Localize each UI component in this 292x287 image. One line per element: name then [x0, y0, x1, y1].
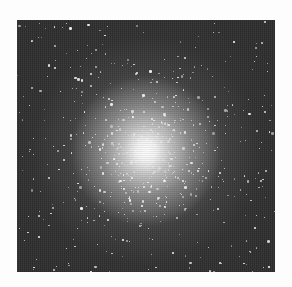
star-dot [40, 191, 41, 192]
star-dot [264, 21, 266, 23]
star-dot [254, 227, 256, 229]
star-dot [218, 176, 219, 177]
star-dot [137, 169, 138, 170]
star-dot [119, 128, 122, 131]
star-dot [142, 94, 145, 97]
star-dot [153, 161, 155, 163]
star-dot [168, 165, 171, 168]
star-dot [255, 47, 257, 49]
star-dot [181, 194, 182, 195]
star-dot [197, 170, 199, 172]
star-dot [38, 236, 40, 238]
star-dot [201, 65, 202, 66]
star-cluster-photo [17, 20, 275, 272]
star-dot [157, 133, 159, 135]
star-dot [156, 188, 159, 191]
star-dot [189, 267, 191, 269]
star-dot [153, 120, 155, 122]
star-dot [69, 27, 72, 30]
star-dot [164, 77, 165, 78]
star-dot [194, 66, 196, 68]
star-dot [219, 262, 221, 264]
star-dot [197, 96, 200, 99]
star-dot [182, 169, 183, 170]
star-dot [33, 267, 35, 269]
star-dot [167, 124, 170, 127]
star-dot [131, 190, 132, 191]
star-dot [245, 215, 246, 216]
star-dot [132, 116, 134, 118]
star-dot [144, 154, 146, 156]
star-dot [22, 170, 23, 171]
star-dot [155, 267, 157, 269]
star-dot [111, 132, 114, 135]
star-dot [177, 56, 179, 58]
star-dot [79, 186, 82, 189]
star-dot [149, 70, 152, 73]
star-dot [18, 25, 21, 28]
star-dot [63, 159, 65, 161]
star-dot [174, 131, 175, 132]
star-dot [173, 97, 174, 98]
star-dot [131, 160, 132, 161]
star-dot [203, 152, 204, 153]
star-dot [246, 264, 247, 265]
star-dot [118, 143, 120, 145]
star-dot [104, 139, 105, 140]
star-dot [140, 152, 143, 155]
star-dot [173, 166, 174, 167]
star-dot [135, 73, 137, 75]
star-dot [199, 147, 200, 148]
star-dot [135, 161, 137, 163]
star-dot [160, 221, 161, 222]
star-dot [143, 126, 145, 128]
star-dot [234, 178, 236, 180]
star-dot [258, 172, 260, 174]
star-dot [175, 176, 177, 178]
star-dot [128, 175, 129, 176]
star-dot [156, 141, 157, 142]
star-dot [133, 143, 135, 145]
star-dot [54, 26, 56, 28]
star-dot [190, 162, 193, 165]
star-dot [148, 228, 149, 229]
star-dot [29, 149, 31, 151]
star-dot [123, 174, 125, 176]
star-dot [99, 148, 102, 151]
star-dot [90, 73, 92, 75]
star-dot [70, 134, 73, 137]
star-dot [87, 222, 88, 223]
star-dot [223, 222, 225, 224]
star-dot [113, 144, 115, 146]
star-dot [99, 189, 102, 192]
star-dot [68, 187, 69, 188]
star-dot [147, 164, 149, 166]
star-dot [72, 88, 73, 89]
star-dot [161, 142, 162, 143]
star-dot [173, 129, 175, 131]
star-dot [196, 188, 198, 190]
star-dot [73, 239, 74, 240]
star-dot [99, 215, 101, 217]
star-dot [193, 124, 195, 126]
star-dot [89, 170, 90, 171]
star-dot [177, 77, 179, 79]
star-dot [135, 187, 136, 188]
star-dot [172, 141, 173, 142]
star-dot [176, 82, 178, 84]
star-dot [150, 151, 152, 153]
star-dot [256, 130, 258, 132]
star-dot [152, 166, 154, 168]
star-dot [264, 111, 266, 113]
star-dot [140, 135, 143, 138]
star-dot [111, 63, 112, 64]
star-dot [265, 170, 267, 172]
star-dot [86, 206, 87, 207]
star-dot [88, 179, 90, 181]
star-dot [195, 195, 198, 198]
star-dot [95, 66, 97, 68]
star-dot [163, 180, 166, 183]
star-dot [271, 132, 274, 135]
star-dot [126, 152, 128, 154]
star-dot [213, 271, 215, 272]
